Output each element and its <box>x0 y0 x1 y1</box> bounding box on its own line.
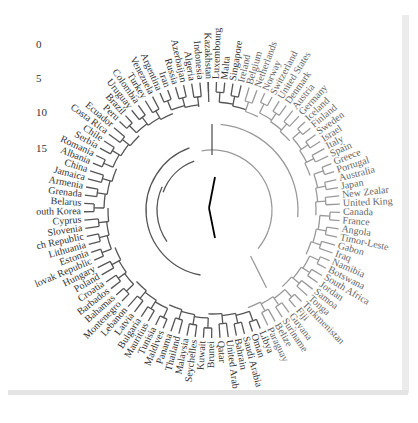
leaf-labels: LuxembourgMaltaSingaporeIrelandBelgiumNe… <box>33 27 393 389</box>
dendrogram-tree: LuxembourgMaltaSingaporeIrelandBelgiumNe… <box>0 0 418 423</box>
scale-label-10: 10 <box>36 106 47 118</box>
scale-label-15: 15 <box>36 142 47 154</box>
leaf-label: Kazakhstan <box>202 32 214 79</box>
scale-label-5: 5 <box>36 72 42 84</box>
leaf-label: Qatar <box>216 340 228 364</box>
page-edge-right <box>402 15 409 393</box>
circular-dendrogram-figure: 0 5 10 15 LuxembourgMaltaSingaporeIrelan… <box>0 0 418 423</box>
page-edge-bottom <box>8 390 408 395</box>
scale-label-0: 0 <box>36 38 42 50</box>
dendrogram-branches <box>84 82 340 338</box>
